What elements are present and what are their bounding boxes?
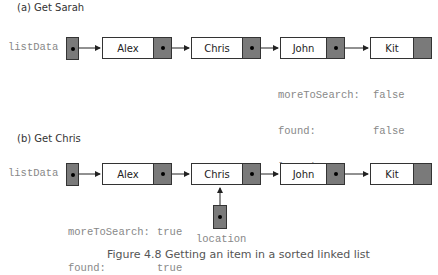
location-pointer-label: location	[196, 233, 246, 245]
vars-values-b: true true	[157, 202, 182, 275]
location-pointer-b	[213, 205, 227, 229]
node-chris-a: Chris	[191, 37, 261, 59]
part-b-title: (b) Get Chris	[17, 133, 81, 144]
list-data-label-b: listData	[8, 167, 58, 179]
node-value: Chris	[192, 164, 242, 184]
node-value: Kit	[371, 164, 413, 184]
more-to-search-value: false	[373, 89, 405, 101]
node-value: Chris	[192, 38, 242, 58]
next-pointer	[326, 164, 344, 184]
next-pointer	[326, 38, 344, 58]
node-value: Kit	[371, 38, 413, 58]
more-to-search-label: moreToSearch:	[68, 226, 150, 238]
node-value: Alex	[103, 38, 153, 58]
part-a-title: (a) Get Sarah	[17, 2, 84, 13]
null-pointer	[413, 38, 431, 58]
node-john-a: John	[280, 37, 345, 59]
next-pointer	[242, 164, 260, 184]
null-pointer	[413, 164, 431, 184]
next-pointer	[242, 38, 260, 58]
node-john-b: John	[280, 163, 345, 185]
node-alex-b: Alex	[102, 163, 172, 185]
node-chris-b: Chris	[191, 163, 261, 185]
node-value: Alex	[103, 164, 153, 184]
more-to-search-value: true	[157, 226, 182, 238]
node-value: John	[281, 164, 326, 184]
found-label: found:	[278, 125, 360, 137]
next-pointer	[153, 38, 171, 58]
list-data-pointer-b	[66, 163, 79, 186]
vars-labels-b: moreToSearch: found:	[68, 202, 150, 275]
node-alex-a: Alex	[102, 37, 172, 59]
more-to-search-label: moreToSearch:	[278, 89, 360, 101]
node-value: John	[281, 38, 326, 58]
found-value: true	[157, 262, 182, 274]
list-data-pointer-a	[66, 37, 79, 60]
figure-caption: Figure 4.8 Getting an item in a sorted l…	[107, 248, 370, 261]
found-label: found:	[68, 262, 150, 274]
node-kit-a: Kit	[370, 37, 432, 59]
next-pointer	[153, 164, 171, 184]
list-data-label-a: listData	[8, 41, 58, 53]
node-kit-b: Kit	[370, 163, 432, 185]
found-value: false	[373, 125, 405, 137]
